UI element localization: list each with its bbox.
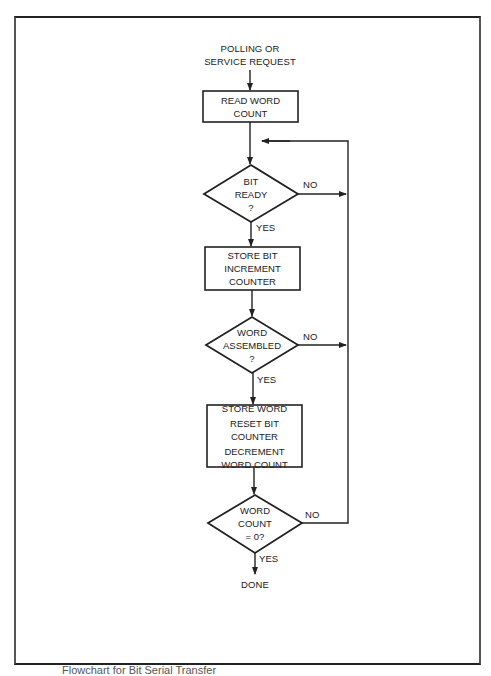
node-line: ?: [249, 352, 254, 365]
process-read-word-count: READ WORD COUNT: [203, 91, 298, 122]
process-store-bit: STORE BIT INCREMENT COUNTER: [205, 247, 300, 290]
start-label-line-1: POLLING OR: [190, 42, 310, 55]
node-line: DECREMENT: [224, 445, 284, 458]
node-line: = 0?: [246, 530, 265, 543]
node-line: COUNTER: [229, 275, 276, 288]
node-line: BIT: [244, 175, 259, 188]
figure-caption: Flowchart for Bit Serial Transfer: [62, 664, 216, 676]
start-label-line-2: SERVICE REQUEST: [190, 55, 310, 68]
node-line: ASSEMBLED: [223, 339, 281, 352]
end-label: DONE: [230, 578, 280, 591]
node-line: COUNTER: [231, 430, 278, 443]
node-line: INCREMENT: [224, 262, 280, 275]
node-line: WORD: [237, 326, 267, 339]
word-assembled-yes-label: YES: [257, 373, 276, 386]
word-assembled-no-label: NO: [303, 330, 317, 343]
decision-bit-ready: BIT READY ?: [211, 173, 291, 215]
node-line: READ WORD: [221, 94, 280, 107]
node-line: ?: [248, 201, 253, 214]
node-line: RESET BIT: [230, 417, 279, 430]
node-line: COUNT: [238, 517, 272, 530]
decision-word-count-zero: WORD COUNT = 0?: [215, 502, 295, 544]
node-line: COUNT: [234, 107, 268, 120]
node-line: WORD: [240, 504, 270, 517]
node-line: STORE BIT: [228, 249, 278, 262]
node-line: STORE WORD: [222, 402, 287, 415]
node-line: WORD COUNT: [221, 458, 288, 471]
decision-word-assembled: WORD ASSEMBLED ?: [212, 324, 292, 366]
word-count-zero-no-label: NO: [305, 508, 319, 521]
node-line: READY: [235, 188, 268, 201]
word-count-zero-yes-label: YES: [259, 552, 278, 565]
bit-ready-yes-label: YES: [256, 221, 275, 234]
start-label: POLLING OR SERVICE REQUEST: [190, 42, 310, 68]
process-store-word: STORE WORD RESET BIT COUNTER DECREMENT W…: [207, 405, 302, 467]
bit-ready-no-label: NO: [303, 178, 317, 191]
